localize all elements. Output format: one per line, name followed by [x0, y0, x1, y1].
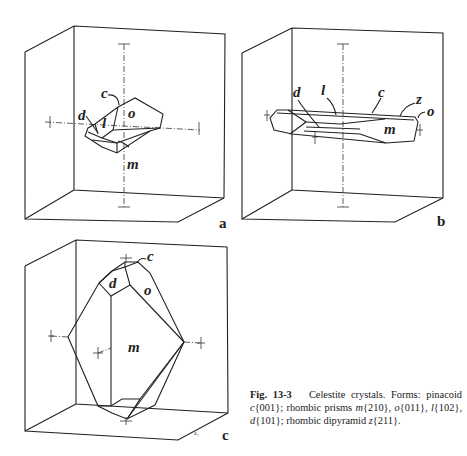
label-m-a: m — [127, 156, 139, 172]
label-c-c: c — [147, 248, 154, 264]
label-l-a: l — [102, 115, 107, 131]
panel-b: d l c z o m b — [242, 28, 445, 229]
label-c-a: c — [101, 85, 108, 101]
figure-title: Celestite crystals. — [309, 389, 385, 400]
caption-text-2: {210}, — [363, 402, 395, 413]
figure-number: Fig. 13-3 — [250, 389, 292, 400]
panel-c: c d o m a₁ c — [25, 240, 229, 443]
label-l-b: l — [321, 82, 326, 98]
caption-text-1: {001}; rhombic prisms — [255, 402, 356, 413]
corner-mark: a₁ — [194, 430, 199, 436]
figure-caption: Fig. 13-3 Celestite crystals. Forms: pin… — [250, 388, 462, 428]
label-m-b: m — [384, 121, 396, 137]
caption-text-0: Forms: pinacoid — [391, 389, 462, 400]
label-o-b: o — [427, 103, 435, 119]
caption-form-m: m — [356, 402, 364, 413]
label-c-b: c — [378, 84, 385, 100]
panel-label-a: a — [219, 215, 227, 231]
label-d-c: d — [109, 275, 117, 291]
label-m-c: m — [128, 339, 140, 355]
caption-text-6: {211}. — [373, 415, 401, 426]
panel-a: c d l o m a — [25, 26, 227, 231]
label-o-a: o — [128, 105, 136, 121]
caption-text-5: {101}; rhombic dipyramid — [255, 415, 369, 426]
caption-text-4: {102}, — [434, 402, 462, 413]
panel-label-b: b — [437, 213, 445, 229]
label-z-b: z — [415, 91, 422, 107]
label-o-c: o — [144, 282, 152, 298]
panel-label-c: c — [222, 427, 229, 443]
label-d-a: d — [78, 107, 86, 123]
label-d-b: d — [293, 84, 301, 100]
caption-text-3: {011}, — [400, 402, 431, 413]
